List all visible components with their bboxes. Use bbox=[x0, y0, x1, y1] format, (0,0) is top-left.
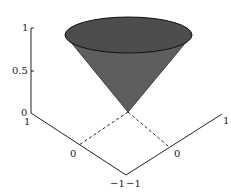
projection-line-y bbox=[128, 112, 168, 146]
x-axis bbox=[31, 113, 126, 175]
y-tick-label-0: 0 bbox=[174, 148, 180, 159]
cone-3d-plot: 1 0.5 0 1 0 −1 −1 0 1 bbox=[0, 0, 231, 196]
y-tick-label-m1: −1 bbox=[126, 178, 141, 189]
cone-top-ellipse bbox=[65, 17, 192, 53]
x-tick-label-m1: −1 bbox=[110, 178, 125, 189]
z-tick-label-1: 1 bbox=[22, 22, 28, 33]
y-tick-label-1: 1 bbox=[223, 115, 229, 126]
projection-line-x bbox=[79, 112, 128, 145]
plot-canvas: 1 0.5 0 1 0 −1 −1 0 1 bbox=[0, 0, 231, 196]
z-tick-label-05: 0.5 bbox=[12, 65, 28, 76]
x-tick-label-1: 1 bbox=[24, 116, 30, 127]
x-tick-label-0: 0 bbox=[70, 148, 76, 159]
